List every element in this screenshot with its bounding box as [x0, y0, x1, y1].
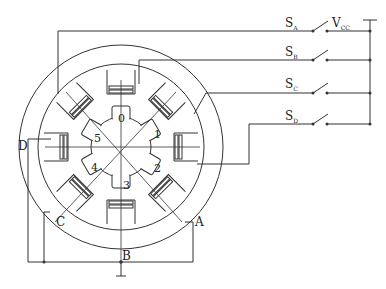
- tooth-label-5: 5: [94, 132, 101, 145]
- phase-label-d: D: [18, 139, 28, 153]
- tooth-label-4: 4: [91, 161, 98, 174]
- phase-label-a: A: [194, 215, 204, 229]
- phase-label-b: B: [122, 249, 131, 263]
- vcc-label: VCC: [331, 16, 350, 31]
- wiring: [28, 20, 377, 276]
- switch-label-b: SB: [285, 45, 298, 60]
- tooth-label-1: 1: [154, 128, 161, 141]
- switch-label-a: SA: [285, 16, 298, 31]
- switch-labels: SA SB SC SD VCC: [285, 16, 350, 124]
- switch-label-d: SD: [285, 109, 298, 124]
- tooth-label-3: 3: [123, 179, 130, 192]
- stepper-motor-diagram: 0 1 2 3 4 5: [0, 0, 386, 289]
- tooth-label-0: 0: [118, 112, 125, 125]
- tooth-label-2: 2: [154, 162, 161, 175]
- switch-label-c: SC: [285, 77, 298, 92]
- phase-label-c: C: [56, 215, 65, 229]
